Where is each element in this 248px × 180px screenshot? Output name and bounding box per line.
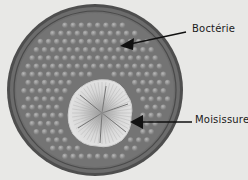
mold-colony <box>68 80 132 147</box>
mold-label: Moisissure <box>195 114 248 125</box>
petri-dish-diagram: Boctérie Moisissure <box>0 0 248 180</box>
bacteria-label: Boctérie <box>192 23 235 34</box>
